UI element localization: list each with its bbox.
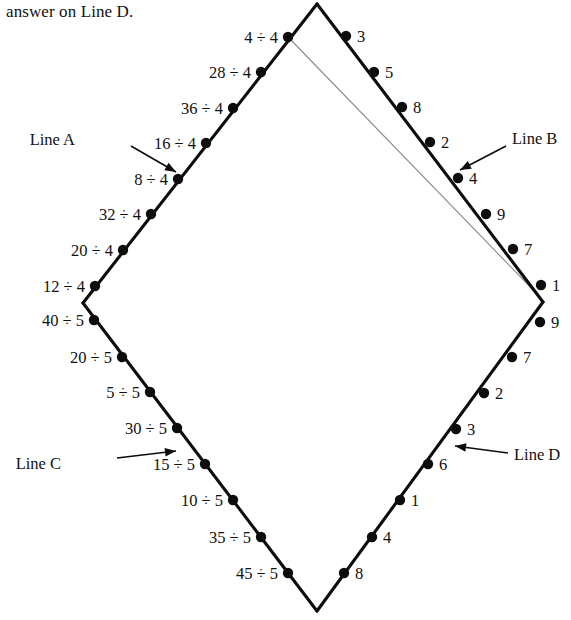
edge-lower-right — [317, 302, 543, 611]
point-label-line-a-3: 16 ÷ 4 — [154, 134, 196, 153]
point-label-line-c-4: 15 ÷ 5 — [153, 455, 195, 474]
point-labels-group: 4 ÷ 428 ÷ 436 ÷ 416 ÷ 48 ÷ 432 ÷ 420 ÷ 4… — [42, 27, 560, 583]
diamond-edges-group — [83, 4, 543, 611]
point-label-line-c-7: 45 ÷ 5 — [236, 564, 278, 583]
point-label-line-b-2: 8 — [413, 98, 421, 117]
thin-guide-line — [288, 37, 540, 297]
dot-line-d-5[interactable] — [395, 495, 405, 505]
edge-lower-left — [83, 303, 317, 611]
point-label-line-b-5: 9 — [497, 205, 505, 224]
number-dots-group — [89, 31, 546, 578]
dot-line-a-7[interactable] — [90, 281, 100, 291]
point-label-line-d-5: 1 — [411, 491, 419, 510]
dot-line-d-6[interactable] — [367, 532, 377, 542]
dot-line-d-4[interactable] — [423, 459, 433, 469]
dot-line-c-5[interactable] — [228, 495, 238, 505]
point-label-line-b-3: 2 — [441, 133, 449, 152]
point-label-line-a-6: 20 ÷ 4 — [71, 241, 113, 260]
point-label-line-b-4: 4 — [469, 169, 477, 188]
edge-upper-right — [317, 4, 543, 302]
dot-line-b-4[interactable] — [453, 173, 463, 183]
dot-line-a-0[interactable] — [283, 32, 293, 42]
point-label-line-d-7: 8 — [355, 564, 363, 583]
dot-line-c-1[interactable] — [117, 352, 127, 362]
diamond-diagram: 4 ÷ 428 ÷ 436 ÷ 416 ÷ 48 ÷ 432 ÷ 420 ÷ 4… — [0, 0, 571, 620]
line-label-a: Line A — [30, 130, 75, 149]
dot-line-b-7[interactable] — [536, 280, 546, 290]
dot-line-c-0[interactable] — [89, 315, 99, 325]
dot-line-d-3[interactable] — [451, 424, 461, 434]
line-labels-group: Line ALine BLine CLine D — [16, 129, 561, 473]
dot-line-a-4[interactable] — [173, 174, 183, 184]
arrowhead-b — [460, 161, 472, 170]
point-label-line-a-2: 36 ÷ 4 — [181, 99, 223, 118]
arrowhead-d — [455, 443, 466, 452]
dot-line-b-5[interactable] — [481, 209, 491, 219]
line-label-c: Line C — [16, 454, 61, 473]
edge-upper-left — [83, 4, 317, 303]
line-label-leaders-group — [117, 146, 508, 458]
point-label-line-c-0: 40 ÷ 5 — [42, 311, 84, 330]
worksheet-page: answer on Line D. 4 ÷ 428 ÷ 436 ÷ 416 ÷ … — [0, 0, 571, 620]
line-label-d: Line D — [514, 445, 560, 464]
dot-line-b-1[interactable] — [369, 67, 379, 77]
dot-line-c-7[interactable] — [283, 568, 293, 578]
point-label-line-a-5: 32 ÷ 4 — [99, 205, 141, 224]
point-label-line-b-1: 5 — [385, 63, 393, 82]
dot-line-c-6[interactable] — [256, 532, 266, 542]
dot-line-b-3[interactable] — [425, 137, 435, 147]
dot-line-d-0[interactable] — [535, 317, 545, 327]
point-label-line-a-1: 28 ÷ 4 — [209, 63, 251, 82]
point-label-line-c-6: 35 ÷ 5 — [209, 528, 251, 547]
dot-line-a-5[interactable] — [146, 209, 156, 219]
dot-line-c-4[interactable] — [200, 459, 210, 469]
dot-line-d-2[interactable] — [479, 388, 489, 398]
point-label-line-a-7: 12 ÷ 4 — [43, 277, 85, 296]
point-label-line-d-6: 4 — [383, 528, 391, 547]
point-label-line-d-1: 7 — [523, 348, 531, 367]
point-label-line-c-5: 10 ÷ 5 — [181, 491, 223, 510]
point-label-line-d-3: 3 — [467, 420, 475, 439]
point-label-line-d-2: 2 — [495, 384, 503, 403]
dot-line-a-1[interactable] — [256, 67, 266, 77]
point-label-line-b-7: 1 — [552, 276, 560, 295]
dot-line-a-2[interactable] — [228, 103, 238, 113]
dot-line-a-3[interactable] — [201, 138, 211, 148]
dot-line-a-6[interactable] — [118, 245, 128, 255]
point-label-line-d-4: 6 — [439, 455, 447, 474]
thin-guide-line-group — [288, 37, 540, 297]
dot-line-b-0[interactable] — [341, 31, 351, 41]
dot-line-d-7[interactable] — [339, 568, 349, 578]
point-label-line-c-1: 20 ÷ 5 — [70, 348, 112, 367]
point-label-line-c-2: 5 ÷ 5 — [106, 383, 140, 402]
dot-line-b-6[interactable] — [508, 244, 518, 254]
dot-line-c-2[interactable] — [145, 387, 155, 397]
point-label-line-b-6: 7 — [524, 240, 532, 259]
point-label-line-b-0: 3 — [357, 27, 365, 46]
dot-line-c-3[interactable] — [172, 423, 182, 433]
point-label-line-d-0: 9 — [551, 313, 559, 332]
dot-line-d-1[interactable] — [507, 352, 517, 362]
point-label-line-a-4: 8 ÷ 4 — [134, 170, 168, 189]
line-label-b: Line B — [512, 129, 557, 148]
point-label-line-a-0: 4 ÷ 4 — [244, 28, 278, 47]
point-label-line-c-3: 30 ÷ 5 — [125, 419, 167, 438]
dot-line-b-2[interactable] — [397, 102, 407, 112]
